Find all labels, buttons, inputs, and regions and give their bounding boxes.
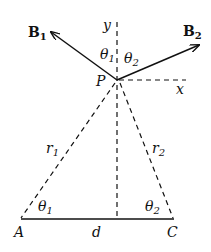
theta1-at-p-label: θ1 [100,46,115,64]
r1-label: r1 [46,140,59,158]
y-axis-label: y [102,17,112,33]
point-p-label: P [95,73,106,89]
b2-label: B2 [183,23,202,41]
x-axis-label: x [176,81,184,97]
theta2-at-c-label: θ2 [145,198,160,216]
r1-dashed-line [21,83,115,218]
theta1-at-a-label: θ1 [38,198,53,216]
distance-d-label: d [92,224,101,240]
r2-label: r2 [152,140,165,158]
point-a-label: A [12,224,24,240]
magnetic-field-diagram: B1 B2 y x P θ1 θ2 r1 r2 θ1 θ2 A d C [0,0,211,252]
theta2-at-p-label: θ2 [124,50,139,68]
b1-label: B1 [28,24,47,42]
point-c-label: C [167,224,178,240]
